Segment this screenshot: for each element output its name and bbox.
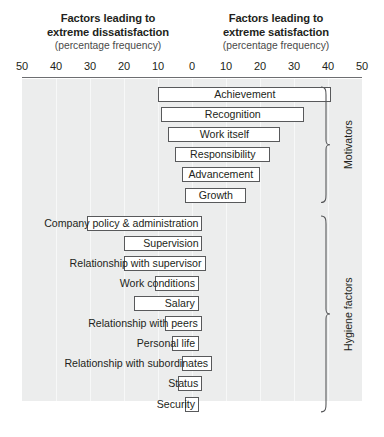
chart-bar-label: Advancement <box>188 167 253 182</box>
plot-area: AchievementRecognitionWork itselfRespons… <box>22 79 362 401</box>
x-tick-label: 40 <box>50 60 62 72</box>
dissatisfaction-heading: Factors leading to extreme dissatisfacti… <box>28 12 188 53</box>
x-tick-label: 10 <box>220 60 232 72</box>
x-tick-label: 40 <box>322 60 334 72</box>
chart-bar-label: Work itself <box>200 127 249 142</box>
motivators-group-label: Motivators <box>342 120 354 169</box>
chart-bar-label: Salary <box>165 296 195 311</box>
chart-bar-label: Responsibility <box>190 147 255 162</box>
chart-bar-label: Supervision <box>143 236 198 251</box>
chart-bar-label: Work conditions <box>120 276 195 291</box>
satisfaction-heading: Factors leading to extreme satisfaction … <box>196 12 356 53</box>
chart-bar-label: Achievement <box>214 87 275 102</box>
x-tick-label: 20 <box>254 60 266 72</box>
dissatisfaction-heading-line2: extreme dissatisfaction <box>28 26 188 40</box>
dissatisfaction-heading-line1: Factors leading to <box>28 12 188 26</box>
gridline <box>294 79 295 401</box>
chart-headings: Factors leading to extreme dissatisfacti… <box>0 0 384 62</box>
chart-bar-label: Personal life <box>137 336 195 351</box>
gridline <box>90 79 91 401</box>
x-tick-label: 30 <box>288 60 300 72</box>
dissatisfaction-heading-sub: (percentage frequency) <box>28 40 188 53</box>
hygiene-bracket <box>320 214 331 414</box>
gridline <box>56 79 57 401</box>
satisfaction-heading-line1: Factors leading to <box>196 12 356 26</box>
herzberg-two-factor-chart: Factors leading to extreme dissatisfacti… <box>0 0 384 437</box>
x-tick-label: 30 <box>84 60 96 72</box>
motivators-bracket <box>320 85 331 205</box>
chart-bar-label: Status <box>168 376 198 391</box>
chart-bar-label: Recognition <box>205 107 261 122</box>
chart-bar-label: Relationship with peers <box>88 316 198 331</box>
x-axis-ticks: 504030201001020304050 <box>0 60 384 78</box>
x-tick-label: 0 <box>189 60 195 72</box>
x-axis-rule <box>22 77 362 78</box>
chart-bar-label: Company policy & administration <box>44 216 198 231</box>
x-tick-label: 20 <box>118 60 130 72</box>
hygiene-group-label: Hygiene factors <box>342 277 354 351</box>
x-tick-label: 10 <box>152 60 164 72</box>
x-tick-label: 50 <box>16 60 28 72</box>
satisfaction-heading-sub: (percentage frequency) <box>196 40 356 53</box>
chart-bar-label: Relationship with supervisor <box>70 256 202 271</box>
x-tick-label: 50 <box>356 60 368 72</box>
chart-bar-label: Security <box>157 397 195 412</box>
satisfaction-heading-line2: extreme satisfaction <box>196 26 356 40</box>
chart-bar-label: Relationship with subordinates <box>64 356 208 371</box>
chart-bar-label: Growth <box>199 188 233 203</box>
